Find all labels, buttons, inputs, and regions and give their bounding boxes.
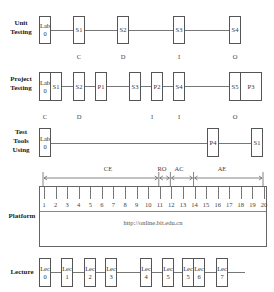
box-text: 5 [166, 273, 169, 281]
week-tick [264, 187, 265, 199]
week-number: 5 [89, 201, 92, 208]
box-text: Lec [85, 265, 95, 273]
lecture-box-4: Lec4 [140, 258, 152, 287]
box-text: 5 [186, 273, 189, 281]
week-number: 3 [66, 201, 69, 208]
week-tick [160, 187, 161, 199]
box-text: Lec [163, 265, 173, 273]
box-text: Lec [106, 265, 116, 273]
box-text: Lec [217, 265, 227, 273]
box-text: 4 [144, 273, 147, 281]
lecture-box-5a: Lec5 [162, 258, 174, 287]
week-tick [183, 187, 184, 199]
week-number: 20 [261, 201, 268, 208]
lecture-box-2: Lec2 [84, 258, 96, 287]
week-number: 16 [214, 201, 221, 208]
week-number: 17 [226, 201, 233, 208]
week-tick [241, 187, 242, 199]
week-tick [90, 187, 91, 199]
platform-url: http://online.bit.edu.cn [40, 219, 266, 226]
week-tick [206, 187, 207, 199]
week-number: 18 [238, 201, 245, 208]
week-tick [125, 187, 126, 199]
week-number: 19 [249, 201, 256, 208]
box-text: 0 [43, 273, 46, 281]
week-tick [113, 187, 114, 199]
week-tick [79, 187, 80, 199]
week-number: 2 [54, 201, 57, 208]
week-number: 14 [191, 201, 198, 208]
lecture-box-7: Lec7 [216, 258, 228, 287]
week-number: 15 [203, 201, 210, 208]
week-tick [218, 187, 219, 199]
platform-divider [40, 211, 266, 212]
box-text: 3 [109, 273, 112, 281]
box-text: Lec [62, 265, 72, 273]
box-text: Lec [40, 265, 50, 273]
box-text: 2 [88, 273, 91, 281]
week-tick [252, 187, 253, 199]
week-tick [137, 187, 138, 199]
box-text: 1 [65, 273, 68, 281]
span-label-ac: AC [174, 165, 183, 172]
lecture-box-6: Lec6 [193, 258, 205, 287]
week-number: 10 [145, 201, 152, 208]
week-tick [171, 187, 172, 199]
week-number: 6 [100, 201, 103, 208]
week-tick [195, 187, 196, 199]
week-number: 11 [157, 201, 163, 208]
lecture-box-3: Lec3 [105, 258, 117, 287]
box-text: Lec [194, 265, 204, 273]
week-tick [44, 187, 45, 199]
span-label-ro: RO [157, 165, 166, 172]
week-tick [229, 187, 230, 199]
week-tick [56, 187, 57, 199]
week-number: 12 [168, 201, 175, 208]
span-label-ae: AE [218, 165, 227, 172]
box-text: 6 [197, 273, 200, 281]
platform-box: http://online.bit.edu.cn 123456789101112… [39, 186, 267, 247]
week-tick [102, 187, 103, 199]
lecture-box-1: Lec1 [61, 258, 73, 287]
week-number: 4 [77, 201, 80, 208]
week-number: 7 [112, 201, 115, 208]
lecture-box-0: Lec0 [39, 258, 51, 287]
span-label-ce: CE [104, 165, 112, 172]
week-tick [148, 187, 149, 199]
box-text: Lec [183, 265, 193, 273]
box-text: Lec [141, 265, 151, 273]
week-number: 8 [123, 201, 126, 208]
week-number: 9 [135, 201, 138, 208]
week-tick [67, 187, 68, 199]
week-number: 1 [42, 201, 45, 208]
week-number: 13 [180, 201, 187, 208]
box-text: 7 [220, 273, 223, 281]
span-arrows [0, 0, 274, 292]
